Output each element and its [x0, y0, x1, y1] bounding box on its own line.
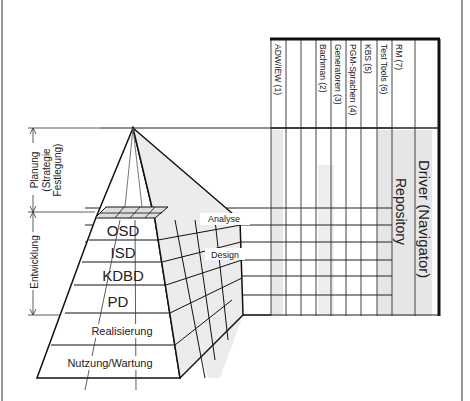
callout-design: Design [211, 250, 239, 260]
diagram-canvas: OSD ISD KDBD PD Realisierung Nutzung/War… [0, 0, 470, 401]
phase-planung: Planung [29, 152, 40, 189]
tool-test-tools: Test Tools (6) [379, 44, 389, 95]
phase-entwicklung: Entwicklung [29, 235, 40, 288]
tool-pgm-sprachen: PGM-Sprachen (4) [348, 44, 358, 115]
tool-bachman: Bachman (2) [318, 44, 328, 93]
layer-nutzung-wartung: Nutzung/Wartung [67, 357, 152, 369]
tool-kbs: KBS (5) [363, 44, 373, 74]
layer-osd: OSD [107, 222, 140, 239]
callout-analyse: Analyse [208, 214, 240, 224]
driver-navigator-label: Driver (Navigator) [416, 160, 433, 278]
layer-isd: ISD [110, 244, 135, 261]
phase-planung-festlegung: Festlegung) [52, 144, 63, 197]
layer-pd: PD [108, 293, 129, 310]
phase-planung-strategie: (Strategie [41, 148, 52, 192]
repository-label: Repository [393, 178, 409, 245]
layer-kdbd: KDBD [102, 267, 144, 284]
tool-generatoren: Generatoren (3) [333, 44, 343, 105]
layer-realisierung: Realisierung [91, 325, 152, 337]
tool-rm: RM (7) [394, 44, 404, 70]
tool-adw-iew: ADW/IEW (1) [273, 44, 283, 95]
